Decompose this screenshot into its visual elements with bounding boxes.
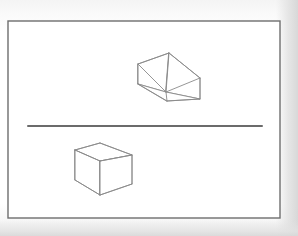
perspective-drawing: Two-box perspective study with horizon l… <box>0 0 298 236</box>
figure-page: Two-box perspective study with horizon l… <box>0 0 298 236</box>
drawing-border <box>8 21 280 218</box>
